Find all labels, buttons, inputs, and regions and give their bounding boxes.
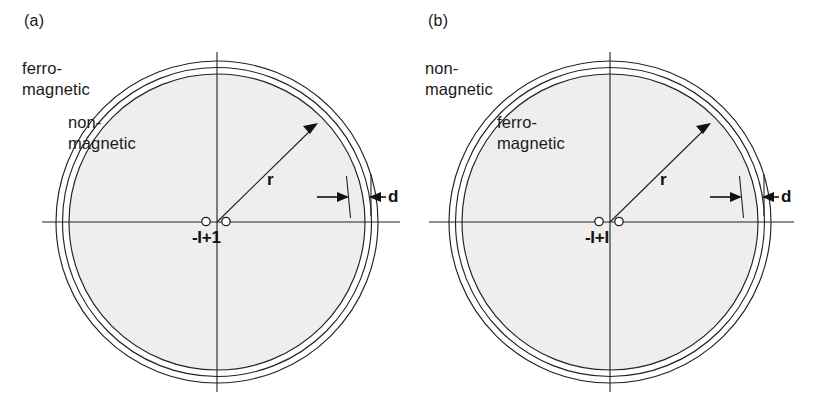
inner-region-label-b: ferro- magnetic [497,112,565,155]
panel-label-b: (b) [428,12,448,30]
panel-a: (a) ferro- magnetic non- magnetic r d -I… [0,0,408,405]
figure-container: (a) ferro- magnetic non- magnetic r d -I… [0,0,817,405]
outer-region-label-b: non- magnetic [425,58,493,101]
thickness-label-a: d [388,187,398,207]
radius-label-b: r [660,170,667,190]
origin-marker-right [222,217,230,225]
origin-label-a: -I+1 [192,228,221,248]
panel-b: (b) non- magnetic ferro- magnetic r d -I… [409,0,817,405]
origin-marker-left [202,217,210,225]
panel-label-a: (a) [24,12,44,30]
origin-marker-left [595,217,603,225]
radius-label-a: r [267,170,274,190]
outer-region-label-a: ferro- magnetic [22,58,90,101]
inner-region-label-a: non- magnetic [68,112,136,155]
origin-label-b: -I+I [585,228,609,248]
thickness-label-b: d [781,187,791,207]
origin-marker-right [615,217,623,225]
